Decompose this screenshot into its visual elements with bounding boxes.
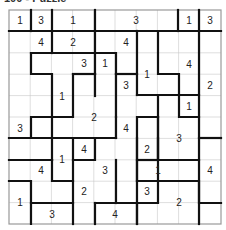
clue-number: 1 xyxy=(186,15,192,26)
clue-number: 4 xyxy=(123,123,129,134)
clue-number: 1 xyxy=(102,58,108,69)
region-wall xyxy=(9,117,52,138)
clue-number: 2 xyxy=(207,80,213,91)
clue-number: 1 xyxy=(17,15,23,26)
clue-number: 4 xyxy=(207,165,213,176)
clue-number: 3 xyxy=(176,133,182,144)
region-wall xyxy=(31,53,52,117)
clue-number: 1 xyxy=(155,165,161,176)
region-wall xyxy=(158,31,179,95)
region-wall xyxy=(158,181,221,203)
clue-number: 4 xyxy=(186,59,192,70)
clue-number: 1 xyxy=(186,101,192,112)
clue-number: 3 xyxy=(102,165,108,176)
clue-number: 3 xyxy=(81,58,87,69)
clue-number: 3 xyxy=(144,186,150,197)
clue-number: 2 xyxy=(176,197,182,208)
clue-number: 1 xyxy=(59,91,65,102)
clue-number: 4 xyxy=(38,165,44,176)
clue-number: 1 xyxy=(144,69,150,80)
clue-number: 3 xyxy=(207,15,213,26)
clue-number: 4 xyxy=(81,144,87,155)
clue-number: 4 xyxy=(123,37,129,48)
clue-number: 1 xyxy=(17,197,23,208)
puzzle-board[interactable]: 1313134243141321123434214314231234 xyxy=(0,0,226,230)
clue-number: 2 xyxy=(91,112,97,123)
clue-number: 1 xyxy=(70,15,76,26)
clue-number: 3 xyxy=(17,123,23,134)
clue-number: 2 xyxy=(81,186,87,197)
clue-number: 3 xyxy=(133,15,139,26)
clue-number: 4 xyxy=(38,37,44,48)
clue-number: 4 xyxy=(112,209,118,220)
clue-number: 1 xyxy=(59,154,65,165)
clue-number: 3 xyxy=(123,80,129,91)
clue-number: 2 xyxy=(144,144,150,155)
clue-number: 3 xyxy=(38,15,44,26)
clue-number: 3 xyxy=(49,209,55,220)
clue-number: 2 xyxy=(70,37,76,48)
